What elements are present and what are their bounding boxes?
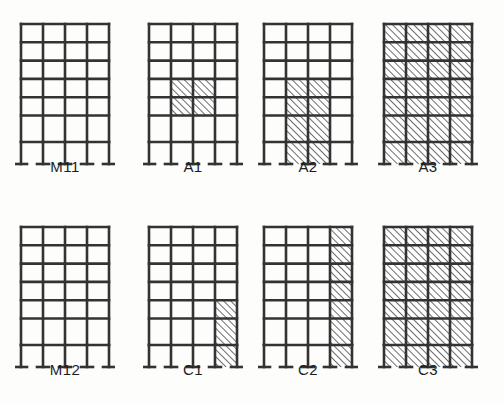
frame-label-a2: A2	[258, 158, 358, 175]
infill-panel	[215, 300, 237, 318]
infill-panel	[428, 318, 450, 345]
frame-drawing	[15, 221, 115, 371]
infill-panel	[330, 245, 352, 263]
frame-drawing	[258, 18, 358, 168]
infill-panel	[193, 97, 215, 115]
infill-panel	[450, 245, 472, 263]
infill-panel	[330, 318, 352, 345]
infill-panel	[406, 282, 428, 300]
infill-panel	[406, 264, 428, 282]
infill-panel	[384, 24, 406, 42]
infill-panel	[428, 79, 450, 97]
infill-panel	[384, 245, 406, 263]
frame-label-a1: A1	[143, 158, 243, 175]
infill-panel	[428, 97, 450, 115]
frame-diagram-a1: A1	[143, 18, 243, 168]
frame-label-c1: C1	[143, 361, 243, 378]
infill-panel	[450, 300, 472, 318]
infill-panel	[406, 97, 428, 115]
infill-panel	[428, 115, 450, 142]
frame-diagram-m11: M11	[15, 18, 115, 168]
infill-panel	[286, 115, 308, 142]
frame-diagram-c2: C2	[258, 221, 358, 371]
infill-panel	[406, 42, 428, 60]
frame-label-m12: M12	[15, 361, 115, 378]
infill-panel	[308, 97, 330, 115]
infill-panel	[286, 97, 308, 115]
frame-diagram-m12: M12	[15, 221, 115, 371]
infill-panel	[406, 61, 428, 79]
infill-panel	[330, 264, 352, 282]
infill-panel	[450, 42, 472, 60]
frame-label-a3: A3	[378, 158, 478, 175]
infill-panel	[384, 42, 406, 60]
infill-panel	[384, 227, 406, 245]
infill-panel	[308, 79, 330, 97]
infill-panel	[428, 227, 450, 245]
frame-drawing	[378, 221, 478, 371]
infill-panel	[406, 79, 428, 97]
figure-sheet: M11A1A2A3M12C1C2C3	[0, 0, 504, 405]
infill-panel	[450, 24, 472, 42]
frame-label-c2: C2	[258, 361, 358, 378]
infill-panel	[428, 300, 450, 318]
infill-panel	[450, 318, 472, 345]
infill-panel	[330, 227, 352, 245]
infill-panel	[428, 24, 450, 42]
infill-panel	[406, 24, 428, 42]
infill-panel	[406, 227, 428, 245]
infill-panel	[406, 115, 428, 142]
frame-drawing	[378, 18, 478, 168]
infill-panel	[330, 300, 352, 318]
infill-panel	[406, 318, 428, 345]
frame-label-m11: M11	[15, 158, 115, 175]
frame-drawing	[258, 221, 358, 371]
infill-panel	[428, 245, 450, 263]
infill-panel	[193, 79, 215, 97]
infill-panel	[450, 61, 472, 79]
frame-drawing	[15, 18, 115, 168]
infill-panel	[450, 227, 472, 245]
frame-diagram-a3: A3	[378, 18, 478, 168]
infill-panel	[428, 61, 450, 79]
infill-panel	[428, 264, 450, 282]
infill-panel	[384, 318, 406, 345]
infill-panel	[286, 79, 308, 97]
infill-panel	[428, 282, 450, 300]
frame-label-c3: C3	[378, 361, 478, 378]
infill-panel	[330, 282, 352, 300]
infill-panel	[450, 97, 472, 115]
infill-panel	[171, 79, 193, 97]
infill-panel	[384, 282, 406, 300]
infill-panel	[384, 115, 406, 142]
infill-panel	[450, 115, 472, 142]
infill-panel	[384, 79, 406, 97]
infill-panel	[450, 282, 472, 300]
frame-drawing	[143, 221, 243, 371]
infill-panel	[450, 264, 472, 282]
infill-panel	[428, 42, 450, 60]
infill-panel	[384, 300, 406, 318]
infill-panel	[406, 245, 428, 263]
infill-panel	[215, 318, 237, 345]
infill-panel	[406, 300, 428, 318]
infill-panel	[384, 61, 406, 79]
infill-panel	[171, 97, 193, 115]
infill-panel	[308, 115, 330, 142]
frame-diagram-c3: C3	[378, 221, 478, 371]
infill-panel	[450, 79, 472, 97]
frame-drawing	[143, 18, 243, 168]
infill-panel	[384, 264, 406, 282]
frame-diagram-a2: A2	[258, 18, 358, 168]
infill-panel-group	[215, 300, 237, 367]
frame-diagram-c1: C1	[143, 221, 243, 371]
infill-panel	[384, 97, 406, 115]
